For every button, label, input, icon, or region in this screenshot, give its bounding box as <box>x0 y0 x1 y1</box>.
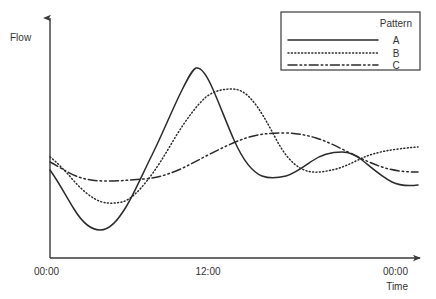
x-tick-label-0: 00:00 <box>34 266 59 277</box>
legend-label-b: B <box>393 48 400 59</box>
y-axis-label: Flow <box>10 32 32 43</box>
x-tick-label-1: 12:00 <box>195 266 220 277</box>
legend-label-a: A <box>393 35 400 46</box>
legend-title: Pattern <box>380 18 412 29</box>
series-line-a <box>50 68 418 230</box>
series-line-b <box>50 89 418 203</box>
x-axis-label: Time <box>386 281 408 292</box>
legend-label-c: C <box>392 60 399 71</box>
line-chart: Flow 00:00 12:00 00:00 Time Pattern A B … <box>0 0 436 299</box>
chart-canvas: Flow 00:00 12:00 00:00 Time Pattern A B … <box>0 0 436 299</box>
x-tick-label-2: 00:00 <box>383 266 408 277</box>
